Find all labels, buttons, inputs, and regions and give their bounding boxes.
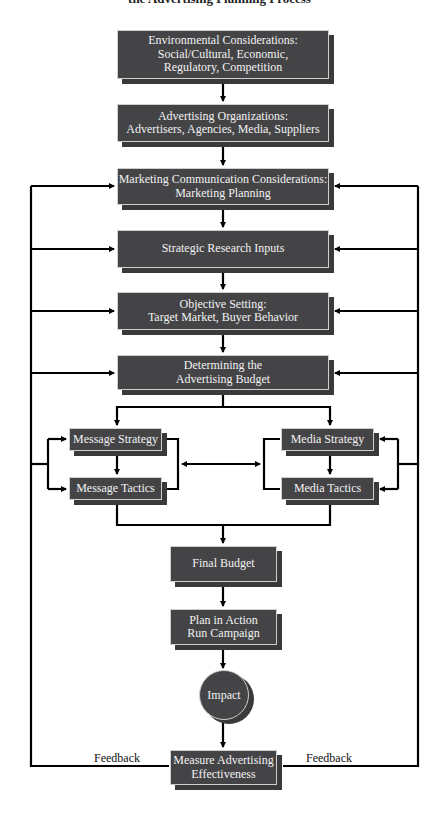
advertising-organizations-box: Advertising Organizations: Advertisers, … xyxy=(117,104,329,142)
impact-circle: Impact xyxy=(199,670,249,720)
final-budget-box: Final Budget xyxy=(170,546,277,582)
message-strategy-box: Message Strategy xyxy=(69,428,162,451)
marketing-communication-box: Marketing Communication Considerations: … xyxy=(117,168,329,205)
media-tactics-box: Media Tactics xyxy=(281,477,374,500)
plan-in-action-box: Plan in Action Run Campaign xyxy=(170,609,277,645)
environmental-considerations-box: Environmental Considerations: Social/Cul… xyxy=(117,30,329,79)
strategic-research-box: Strategic Research Inputs xyxy=(117,230,329,268)
message-tactics-box: Message Tactics xyxy=(69,477,162,500)
measure-effectiveness-box: Measure Advertising Effectiveness xyxy=(170,750,277,785)
advertising-budget-box: Determining the Advertising Budget xyxy=(117,355,329,390)
media-strategy-box: Media Strategy xyxy=(281,428,374,451)
objective-setting-box: Objective Setting: Target Market, Buyer … xyxy=(117,292,329,330)
